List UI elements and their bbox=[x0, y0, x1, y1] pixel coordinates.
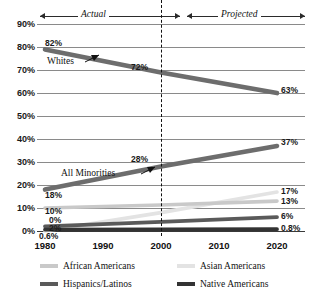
label-whites-2000: 72% bbox=[131, 62, 148, 72]
y-tick-20: 20% bbox=[3, 180, 35, 190]
label-whites-1980: 82% bbox=[45, 38, 62, 48]
demographic-projection-chart: Actual Projected 90% 80% 70% 60% 50% 40%… bbox=[0, 0, 321, 303]
legend-label-native-americans: Native Americans bbox=[200, 279, 268, 289]
y-tick-30: 30% bbox=[3, 157, 35, 167]
y-tick-50: 50% bbox=[3, 111, 35, 121]
label-native-2020: 0.8% bbox=[281, 223, 300, 233]
chart-legend: African Americans Asian Americans Hispan… bbox=[40, 261, 302, 297]
series-lines bbox=[37, 24, 305, 236]
label-minorities-2020: 37% bbox=[281, 137, 298, 147]
y-tick-80: 80% bbox=[3, 42, 35, 52]
y-tick-60: 60% bbox=[3, 88, 35, 98]
legend-label-asian-americans: Asian Americans bbox=[200, 261, 265, 271]
projection-divider-2000 bbox=[161, 0, 162, 236]
label-asian-2020: 17% bbox=[281, 186, 298, 196]
callout-whites: Whites bbox=[47, 56, 74, 66]
y-tick-90: 90% bbox=[3, 19, 35, 29]
label-minorities-1980: 18% bbox=[45, 190, 62, 200]
legend-item-african-americans: African Americans bbox=[40, 261, 135, 271]
y-axis: 90% 80% 70% 60% 50% 40% 30% 20% 10% 0% bbox=[0, 24, 35, 236]
legend-item-asian-americans: Asian Americans bbox=[177, 261, 265, 271]
period-label-projected: Projected bbox=[218, 9, 261, 19]
actual-rule bbox=[40, 16, 180, 17]
x-tick-2010: 2010 bbox=[196, 240, 242, 251]
label-african-2020: 13% bbox=[281, 196, 298, 206]
actual-right-arrow-icon bbox=[175, 13, 180, 19]
y-tick-70: 70% bbox=[3, 65, 35, 75]
x-tick-2020: 2020 bbox=[254, 240, 300, 251]
label-hispanic-2020: 6% bbox=[281, 211, 293, 221]
legend-label-hispanics-latinos: Hispanics/Latinos bbox=[63, 279, 132, 289]
legend-swatch-native-americans bbox=[177, 282, 195, 286]
legend-label-african-americans: African Americans bbox=[63, 261, 135, 271]
legend-swatch-african-americans bbox=[40, 264, 58, 268]
y-tick-40: 40% bbox=[3, 134, 35, 144]
x-tick-1980: 1980 bbox=[22, 240, 68, 251]
x-axis: 1980 1990 2000 2010 2020 bbox=[37, 240, 305, 254]
legend-item-hispanics-latinos: Hispanics/Latinos bbox=[40, 279, 132, 289]
legend-item-native-americans: Native Americans bbox=[177, 279, 268, 289]
callout-all-minorities: All Minorities bbox=[61, 168, 115, 178]
projected-left-arrow-icon bbox=[187, 13, 192, 19]
y-tick-10: 10% bbox=[3, 203, 35, 213]
y-tick-0: 0% bbox=[3, 226, 35, 236]
x-tick-2000: 2000 bbox=[138, 240, 184, 251]
label-whites-2020: 63% bbox=[281, 85, 298, 95]
projected-right-arrow-icon bbox=[300, 13, 305, 19]
legend-swatch-hispanics-latinos bbox=[40, 282, 58, 286]
x-tick-1990: 1990 bbox=[80, 240, 126, 251]
plot-area: 82% 72% 63% 18% 28% 37% 10% 13% 0% 17% 2… bbox=[37, 24, 305, 236]
actual-left-arrow-icon bbox=[40, 13, 45, 19]
period-label-actual: Actual bbox=[78, 9, 109, 19]
label-minorities-2000: 28% bbox=[131, 154, 148, 164]
legend-swatch-asian-americans bbox=[177, 264, 195, 268]
